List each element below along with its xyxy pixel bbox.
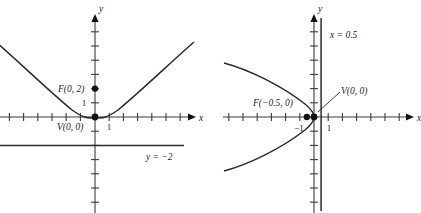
right-vertex-point — [311, 114, 318, 121]
left-focus-point — [92, 85, 98, 91]
left-parabola-curve — [0, 42, 194, 118]
right-directrix-label: x = 0.5 — [329, 30, 358, 40]
right-focus-point — [304, 114, 310, 120]
right-x-tick-label-1: 1 — [327, 123, 332, 133]
right-focus-label: F(−0.5, 0) — [252, 98, 293, 109]
left-x-tick-label-1: 1 — [107, 122, 112, 132]
right-parabola-panel: x y F(−0.5, 0) V(0, 0) x = 0.5 −1 1 — [210, 0, 421, 213]
left-x-axis-label: x — [198, 113, 204, 123]
left-vertex-point — [92, 114, 99, 121]
right-y-axis-label: y — [317, 4, 323, 14]
left-directrix-label: y = −2 — [145, 152, 173, 162]
left-y-tick-label-1: 1 — [82, 98, 87, 108]
left-y-axis-label: y — [98, 4, 104, 14]
left-y-axis — [91, 14, 98, 213]
figure-canvas: x y F(0, 2) V(0, 0) y = −2 1 1 — [0, 0, 421, 213]
left-vertex-label: V(0, 0) — [57, 122, 83, 133]
right-x-axis-label: x — [416, 113, 421, 123]
left-focus-label: F(0, 2) — [57, 84, 84, 95]
right-x-tick-label-neg1: −1 — [294, 123, 304, 133]
left-parabola-panel: x y F(0, 2) V(0, 0) y = −2 1 1 — [0, 0, 210, 213]
right-vertex-label: V(0, 0) — [341, 86, 367, 97]
right-y-axis — [310, 14, 317, 213]
